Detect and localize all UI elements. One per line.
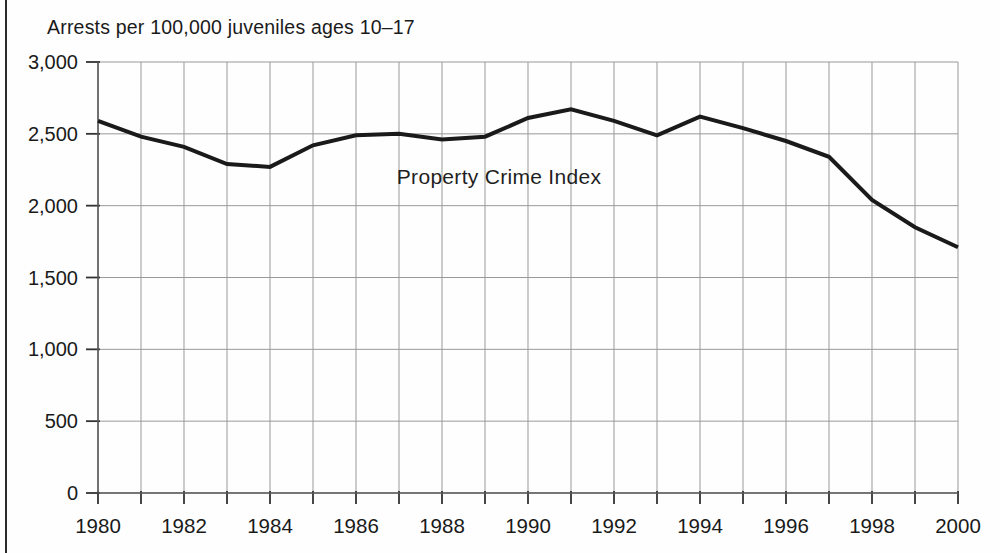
x-tick-label: 1990 [505,514,551,537]
y-tick-label: 500 [45,410,78,432]
x-tick-label: 1994 [677,514,723,537]
x-tick-label: 1986 [333,514,379,537]
x-tick-label: 1984 [247,514,293,537]
y-tick-label: 0 [67,482,78,504]
x-tick-label: 1988 [419,514,465,537]
y-tick-label: 1,000 [28,338,78,360]
line-chart-canvas: 05001,0001,5002,0002,5003,00019801982198… [0,0,1000,553]
series-annotation-label: Property Crime Index [397,165,601,189]
x-tick-label: 2000 [935,514,981,537]
y-tick-label: 1,500 [28,267,78,289]
x-tick-label: 1982 [161,514,207,537]
figure-container: Arrests per 100,000 juveniles ages 10–17… [0,0,1000,553]
x-tick-label: 1996 [763,514,809,537]
y-tick-label: 2,500 [28,123,78,145]
x-tick-label: 1992 [591,514,637,537]
y-tick-label: 3,000 [28,51,78,73]
x-tick-label: 1998 [849,514,895,537]
y-tick-label: 2,000 [28,195,78,217]
x-tick-label: 1980 [75,514,121,537]
